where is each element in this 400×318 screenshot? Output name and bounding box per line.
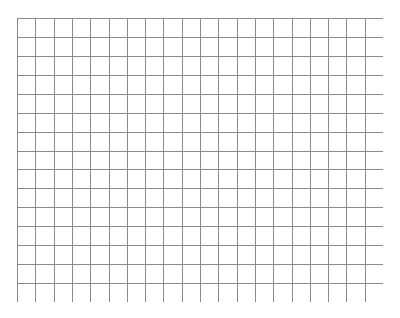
grid-paper bbox=[17, 18, 383, 302]
grid-lines bbox=[17, 18, 383, 302]
